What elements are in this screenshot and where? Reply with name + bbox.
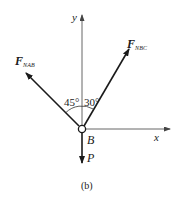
x-axis-label: x: [154, 132, 159, 143]
angle-left-label: 45°: [64, 97, 79, 108]
free-body-diagram: y x FNAB FNBC P B 45° 30° (b): [0, 0, 179, 205]
node-b-icon: [78, 125, 85, 132]
force-nbc-label: FNBC: [127, 38, 147, 51]
force-nab-symbol: F: [15, 54, 23, 68]
force-nab-label: FNAB: [15, 55, 35, 68]
force-nab-subscript: NAB: [23, 62, 35, 68]
point-b-label: B: [87, 134, 94, 146]
force-nbc-symbol: F: [127, 37, 135, 51]
y-axis-label: y: [72, 12, 77, 23]
force-nbc-arrow: [84, 49, 129, 126]
force-nbc-subscript: NBC: [135, 45, 147, 51]
force-p-label: P: [87, 152, 94, 164]
figure-caption: (b): [81, 181, 93, 191]
angle-right-label: 30°: [84, 97, 99, 108]
